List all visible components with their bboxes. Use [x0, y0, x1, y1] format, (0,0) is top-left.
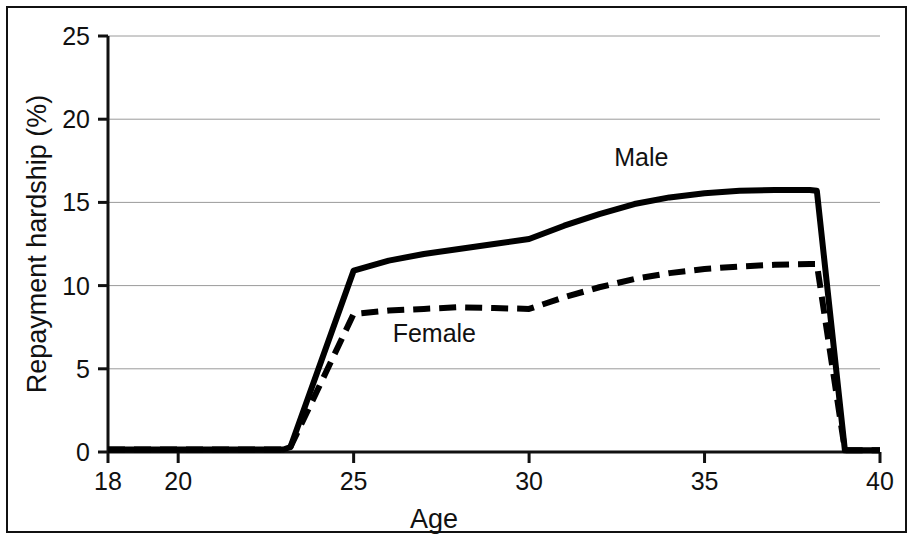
y-tick-label-10: 10 — [62, 272, 90, 300]
y-tick-label-20: 20 — [62, 105, 90, 133]
x-tick-label-40: 40 — [866, 467, 894, 495]
y-tick-label-0: 0 — [76, 438, 90, 466]
y-tick-label-15: 15 — [62, 188, 90, 216]
y-tick-label-25: 25 — [62, 22, 90, 50]
x-axis-title: Age — [410, 504, 458, 534]
y-tick-label-5: 5 — [76, 355, 90, 383]
gridlines — [108, 36, 880, 369]
x-tick-label-18: 18 — [94, 467, 122, 495]
y-axis-title: Repayment hardship (%) — [22, 95, 52, 394]
series-line-female — [108, 264, 880, 450]
figure-container: 0510152025182025303540 MaleFemale AgeRep… — [0, 0, 915, 540]
x-tick-label-35: 35 — [691, 467, 719, 495]
series-line-male — [108, 190, 880, 450]
series-labels: MaleFemale — [393, 143, 669, 347]
series-label-female: Female — [393, 319, 476, 347]
axis-titles: AgeRepayment hardship (%) — [22, 95, 458, 534]
x-tick-label-25: 25 — [340, 467, 368, 495]
series-label-male: Male — [614, 143, 668, 171]
x-tick-label-20: 20 — [164, 467, 192, 495]
repayment-hardship-by-age-chart: 0510152025182025303540 MaleFemale AgeRep… — [0, 0, 915, 540]
x-tick-label-30: 30 — [515, 467, 543, 495]
data-series — [108, 190, 880, 450]
axis-tick-labels: 0510152025182025303540 — [62, 22, 894, 495]
axis-ticks — [98, 36, 880, 463]
